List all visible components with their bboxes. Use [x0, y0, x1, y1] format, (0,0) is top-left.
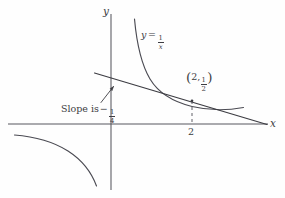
point-label-numerator: 1 [201, 77, 207, 84]
hyperbola-branch-negative [15, 135, 97, 186]
curve-equation-fraction: 1 x [158, 35, 164, 51]
curve-equation-equals: = [148, 29, 156, 40]
tangency-point-marker [191, 99, 194, 102]
slope-annotation-fraction: 1 4 [109, 109, 115, 125]
slope-annotation-text: Slope is [61, 103, 99, 114]
point-label-denominator: 2 [201, 84, 207, 92]
curve-equation-label: y= 1 x [141, 30, 164, 51]
slope-annotation-denominator: 4 [109, 116, 115, 124]
curve-equation-denominator: x [158, 42, 163, 50]
slope-annotation-sign: − [100, 103, 108, 114]
curve-equation-lhs: y [141, 29, 146, 40]
tangency-point-label: (2, 1 2 ) [186, 72, 212, 93]
x-axis-label: x [270, 118, 276, 129]
function-graph-figure: y x 2 y= 1 x (2, 1 2 ) Slope is− 1 4 [0, 0, 285, 198]
slope-annotation-numerator: 1 [109, 109, 115, 116]
curve-equation-numerator: 1 [158, 35, 164, 42]
slope-annotation-label: Slope is− 1 4 [61, 104, 116, 125]
axes-group [8, 14, 268, 190]
tangent-line [95, 73, 268, 125]
x-tick-label-2: 2 [188, 127, 194, 137]
y-axis-label: y [103, 6, 109, 17]
point-label-close-paren: ) [207, 69, 212, 85]
slope-leader-line [101, 87, 114, 103]
point-label-fraction: 1 2 [201, 77, 207, 93]
